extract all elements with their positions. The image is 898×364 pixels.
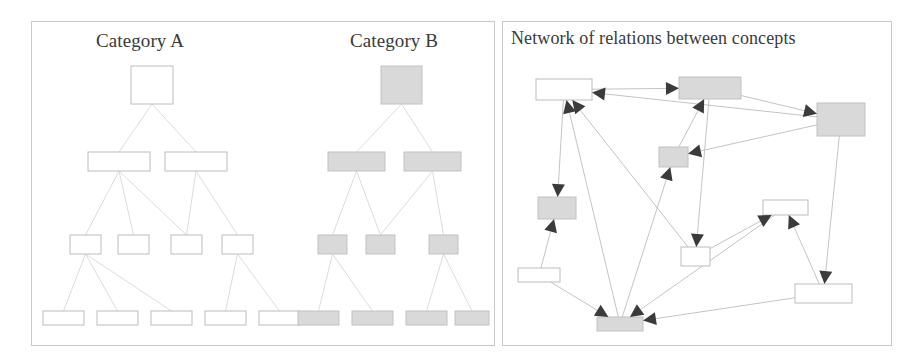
category-b-title: Category B (350, 30, 438, 52)
network-panel (502, 21, 892, 346)
figure-canvas: Category A Category B Network of relatio… (0, 0, 898, 364)
hierarchies-panel (31, 21, 495, 346)
network-title: Network of relations between concepts (511, 28, 796, 49)
category-a-title: Category A (96, 30, 184, 52)
